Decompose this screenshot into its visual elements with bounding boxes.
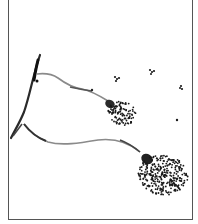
lower-conidiophore	[24, 124, 155, 167]
fungus-illustration	[0, 0, 198, 224]
loose-spores	[114, 69, 183, 121]
upper-conidiophore	[37, 74, 116, 110]
